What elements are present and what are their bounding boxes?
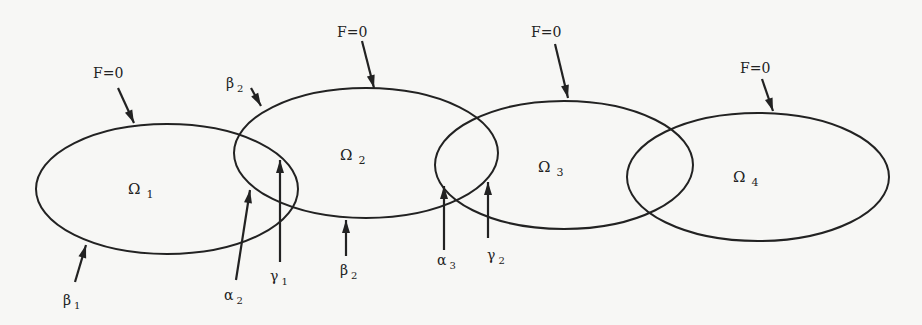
- f0-3-arrowhead-icon: [561, 84, 569, 98]
- subdomain-label-omega1: Ω1: [128, 180, 153, 201]
- boundary-label-beta1: β1: [63, 292, 80, 311]
- subdomain-boundary-omega2: [234, 88, 498, 218]
- boundary-label-gamma1: γ1: [270, 268, 288, 287]
- alpha2-arrow-icon: [236, 190, 250, 280]
- subdomain-label-omega4: Ω4: [733, 168, 758, 189]
- subdomain-boundary-omega1: [36, 124, 298, 254]
- f0-1-arrowhead-icon: [125, 110, 134, 123]
- boundary-label-f0-1: F=0: [93, 65, 123, 81]
- boundary-label-f0-2: F=0: [337, 24, 367, 40]
- subdomain-boundary-omega3: [435, 101, 693, 229]
- boundary-label-alpha3: α3: [437, 252, 456, 271]
- subdomain-label-omega2: Ω2: [340, 146, 365, 167]
- boundary-label-beta2-top: β2: [226, 75, 243, 94]
- subdomain-label-omega3: Ω3: [538, 158, 563, 179]
- boundary-label-alpha2: α2: [224, 287, 243, 306]
- beta1-arrowhead-icon: [78, 245, 86, 259]
- boundary-label-f0-3: F=0: [531, 24, 561, 40]
- boundary-label-f0-4: F=0: [740, 60, 770, 76]
- f0-4-arrowhead-icon: [765, 97, 773, 111]
- boundary-label-beta2-bot: β2: [340, 262, 357, 281]
- f0-2-arrowhead-icon: [367, 74, 375, 88]
- boundary-label-gamma2: γ2: [487, 247, 505, 266]
- beta2-bot-arrowhead-icon: [342, 220, 350, 233]
- beta2-top-arrowhead-icon: [251, 93, 261, 106]
- domain-decomposition-diagram: Ω1Ω2Ω3Ω4F=0F=0F=0F=0β2β1α2γ1β2α3γ2: [0, 0, 922, 325]
- gamma1-arrowhead-icon: [276, 160, 284, 173]
- gamma2-arrowhead-icon: [484, 182, 492, 195]
